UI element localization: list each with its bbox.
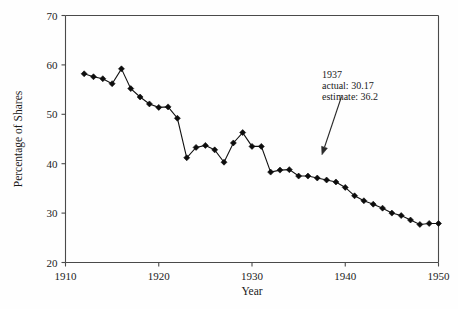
x-tick-label: 1940 — [334, 270, 357, 282]
x-axis-ticks: 19101920193019401950 — [55, 263, 451, 282]
data-point-marker — [389, 210, 395, 216]
data-point-marker — [305, 173, 311, 179]
x-tick-label: 1920 — [148, 270, 171, 282]
data-point-marker — [81, 71, 87, 77]
y-tick-label: 60 — [47, 59, 59, 71]
x-axis-title: Year — [241, 285, 262, 297]
data-point-marker — [202, 142, 208, 148]
x-tick-label: 1910 — [55, 270, 78, 282]
data-point-marker — [370, 201, 376, 207]
x-tick-label: 1930 — [241, 270, 264, 282]
y-axis-ticks: 203040506070 — [47, 10, 66, 269]
annotation-arrow-shaft — [324, 97, 341, 148]
y-tick-label: 20 — [47, 257, 59, 269]
y-tick-label: 70 — [47, 10, 59, 22]
y-tick-label: 50 — [47, 108, 59, 120]
plot-frame — [66, 16, 439, 263]
data-point-marker — [436, 220, 442, 226]
data-point-marker — [417, 221, 423, 227]
data-point-marker — [90, 74, 96, 80]
annotation-callout: 1937 actual: 30.17 estimate: 36.2 — [322, 69, 378, 102]
data-point-marker — [100, 76, 106, 82]
data-point-marker — [361, 198, 367, 204]
data-point-marker — [156, 104, 162, 110]
data-point-marker — [249, 143, 255, 149]
y-tick-label: 30 — [47, 207, 59, 219]
data-point-marker — [398, 213, 404, 219]
data-point-marker — [426, 220, 432, 226]
data-point-marker — [118, 66, 124, 72]
annotation-line-actual: actual: 30.17 — [322, 80, 374, 91]
data-point-marker — [268, 169, 274, 175]
data-point-marker — [408, 217, 414, 223]
annotation-line-year: 1937 — [322, 69, 342, 80]
line-chart: 203040506070 19101920193019401950 1937 a… — [0, 0, 458, 309]
x-tick-label: 1950 — [428, 270, 451, 282]
data-point-marker — [277, 167, 283, 173]
data-point-marker — [380, 205, 386, 211]
data-point-marker — [324, 177, 330, 183]
data-point-marker — [333, 179, 339, 185]
y-axis-title: Percentage of Shares — [12, 90, 25, 187]
data-point-marker — [258, 143, 264, 149]
data-point-marker — [314, 175, 320, 181]
data-point-marker — [109, 81, 115, 87]
annotation-arrow — [322, 97, 342, 155]
annotation-arrow-head — [322, 146, 328, 155]
series-markers — [81, 66, 441, 228]
y-tick-label: 40 — [47, 158, 59, 170]
chart-figure: 203040506070 19101920193019401950 1937 a… — [0, 0, 458, 309]
annotation-line-estimate: estimate: 36.2 — [322, 91, 378, 102]
